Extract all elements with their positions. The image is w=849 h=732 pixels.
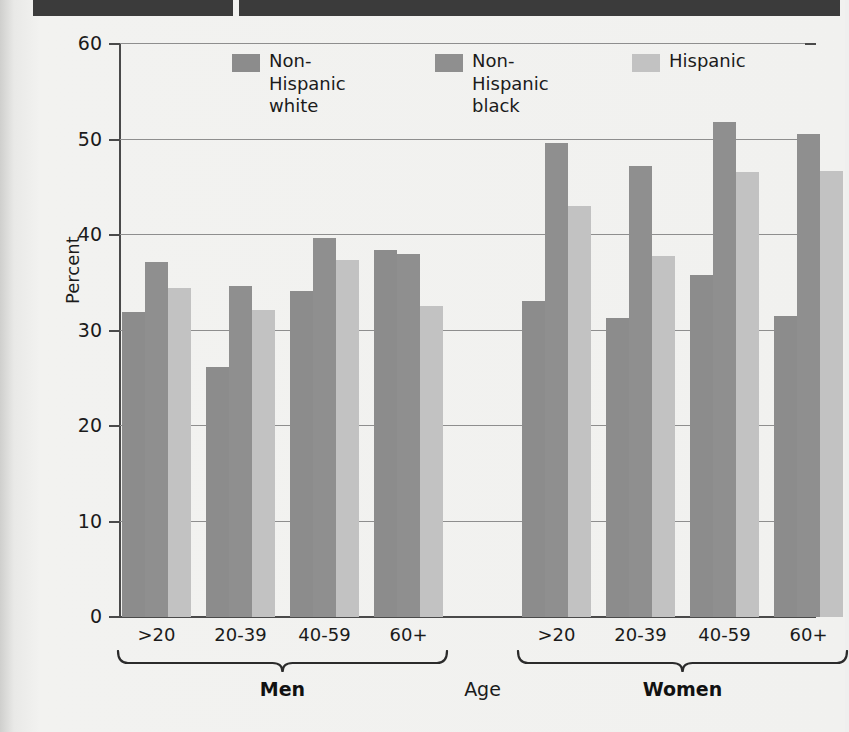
chart-bar [568,206,591,617]
chart-bar [629,166,652,617]
chart-bar [313,238,336,617]
chart-bar [820,171,843,617]
chart-bar [122,312,145,617]
group-label-men: Men [203,678,363,700]
y-axis-tick-right [805,43,816,45]
gridline [120,139,805,140]
x-tick-label: >20 [117,624,197,645]
y-tick-label: 0 [62,607,102,626]
x-axis-title: Age [433,678,533,700]
chart-bar [168,288,191,617]
chart-bar [420,306,443,617]
y-axis-tick [109,234,120,236]
y-tick-label: 10 [62,512,102,531]
chart-bar [690,275,713,617]
y-axis-tick [109,43,120,45]
legend-label: Hispanic [669,50,746,73]
group-label-women: Women [603,678,763,700]
brace-men [116,650,449,674]
x-tick-label: 20-39 [601,624,681,645]
chart-bar [545,143,568,617]
y-tick-label: 40 [62,225,102,244]
x-tick-label: >20 [517,624,597,645]
chart-bar [736,172,759,617]
chart-bar [713,122,736,617]
y-axis-title: Percent [62,236,83,304]
x-tick-label: 40-59 [285,624,365,645]
legend-swatch [632,54,660,72]
chart-bar [252,310,275,618]
legend-label: Non-Hispanic black [472,50,549,118]
y-axis-tick [109,521,120,523]
chart-bar [206,367,229,617]
header-block-left [33,0,233,16]
x-tick-label: 60+ [769,624,849,645]
brace-women [516,650,849,674]
y-axis-tick [109,330,120,332]
y-axis-tick [109,616,120,618]
chart-bar [797,134,820,617]
chart-bar [652,256,675,617]
chart-bar [397,254,420,617]
y-tick-label: 20 [62,416,102,435]
y-tick-label: 50 [62,130,102,149]
gridline [120,43,805,44]
chart-bar [229,286,252,617]
x-tick-label: 60+ [369,624,449,645]
x-tick-label: 40-59 [685,624,765,645]
y-tick-label: 60 [62,34,102,53]
chart-legend: Non-Hispanic whiteNon-Hispanic blackHisp… [232,52,752,108]
gridline [120,234,805,235]
chart-bar [290,291,313,617]
chart-bar [145,262,168,617]
chart-bar [374,250,397,617]
chart-bar [522,301,545,617]
legend-swatch [435,54,463,72]
y-tick-label: 30 [62,321,102,340]
chart-bar [606,318,629,617]
plot-area: Percent 0102030405060 [120,44,805,617]
legend-label: Non-Hispanic white [269,50,346,118]
chart-figure: Percent 0102030405060 Non-Hispanic white… [0,16,845,732]
x-tick-label: 20-39 [201,624,281,645]
y-axis-tick [109,425,120,427]
page-header-strip [0,0,845,16]
legend-swatch [232,54,260,72]
y-axis-tick [109,139,120,141]
header-block-right [239,0,840,16]
chart-bar [774,316,797,617]
chart-bar [336,260,359,617]
